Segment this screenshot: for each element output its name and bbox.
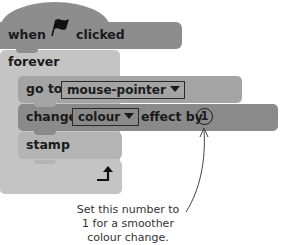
annotation-line-3: colour change.	[70, 231, 186, 245]
annotation-line-2: 1 for a smoother	[70, 217, 186, 231]
annotation-text: Set this number to 1 for a smoother colo…	[70, 203, 186, 245]
annotation-line-1: Set this number to	[70, 203, 186, 217]
